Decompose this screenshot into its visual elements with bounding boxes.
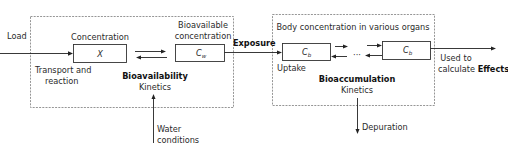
bioaccumulation-kinetics: Kinetics bbox=[341, 85, 373, 95]
depuration-arrow bbox=[356, 98, 360, 134]
x-symbol: X bbox=[96, 49, 103, 59]
water-label-line1: Water bbox=[157, 124, 182, 134]
ellipsis: ··· bbox=[353, 50, 361, 60]
transport-label-line2: reaction bbox=[45, 76, 78, 86]
effects-arrow bbox=[431, 47, 497, 51]
bioavailable-label-line1: Bioavailable bbox=[178, 20, 228, 30]
uptake-label: Uptake bbox=[277, 63, 306, 73]
equilibrium-arrows bbox=[135, 50, 167, 60]
bioaccumulation-title: Bioaccumulation bbox=[319, 74, 396, 84]
water-conditions-arrow bbox=[152, 94, 156, 143]
bioavailability-title: Bioavailability bbox=[122, 71, 188, 81]
transport-label-line1: Transport and bbox=[34, 65, 91, 75]
bioavailability-bioaccumulation-diagram: Load Transport and reaction Concentratio… bbox=[0, 0, 508, 153]
bioavailable-label-line2: concentration bbox=[175, 31, 232, 41]
exposure-label: Exposure bbox=[233, 38, 276, 48]
effects-label-line1: Used to bbox=[440, 53, 471, 63]
water-label-line2: conditions bbox=[157, 135, 199, 145]
concentration-label: Concentration bbox=[71, 32, 129, 42]
load-label: Load bbox=[7, 31, 27, 41]
load-arrow bbox=[0, 51, 73, 55]
depuration-label: Depuration bbox=[362, 122, 408, 132]
effects-label-line2: calculate Effects bbox=[438, 64, 508, 74]
body-concentration-label: Body concentration in various organs bbox=[276, 22, 429, 32]
bioavailability-kinetics: Kinetics bbox=[139, 82, 171, 92]
